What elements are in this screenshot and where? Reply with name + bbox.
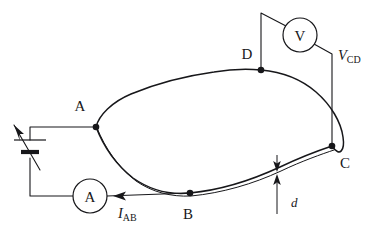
wire-a-to-source [30, 127, 96, 140]
source-variable-arrowhead [14, 125, 24, 141]
current-label: IAB [117, 205, 137, 223]
thickness-label: d [291, 195, 298, 210]
van-der-pauw-diagram: A V A B C D IAB VCD d [0, 0, 375, 251]
wire-d-to-voltmeter [261, 13, 286, 70]
voltmeter-label: V [295, 28, 306, 44]
wire-voltmeter-to-c [314, 44, 332, 146]
voltage-subscript: CD [347, 54, 361, 65]
sample-bottom-outer-edge [96, 127, 332, 193]
sample-top-edge [96, 69, 343, 151]
voltage-label: VCD [338, 47, 361, 65]
current-direction-arrowhead [113, 192, 126, 201]
sample-bottom-inner-edge [97, 128, 334, 196]
ammeter-label: A [85, 189, 96, 205]
contact-label-b: B [183, 206, 193, 222]
contact-label-a: A [75, 98, 86, 114]
contact-label-c: C [340, 155, 350, 171]
current-subscript: AB [123, 212, 137, 223]
figure-canvas: A V A B C D IAB VCD d [0, 0, 375, 251]
contact-label-d: D [242, 46, 253, 62]
